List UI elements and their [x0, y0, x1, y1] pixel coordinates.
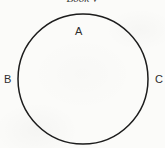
- point-label-b: B: [4, 74, 11, 85]
- point-label-c: C: [155, 74, 163, 85]
- point-label-a: A: [75, 26, 82, 37]
- circle-outline: [18, 14, 148, 144]
- circle-diagram: [0, 0, 165, 148]
- geometry-figure: Book V A B C: [0, 0, 165, 148]
